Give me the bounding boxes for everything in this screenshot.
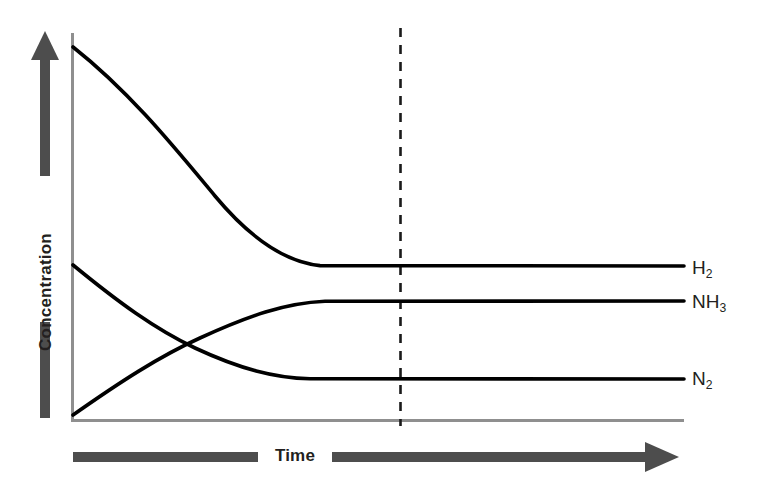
y-axis-title: Concentration: [36, 192, 56, 392]
series-label-nh3-formula: NH: [692, 291, 719, 312]
series-label-n2-formula: N: [692, 368, 706, 389]
series-label-nh3: NH3: [692, 292, 726, 311]
chart-canvas: [0, 0, 761, 488]
series-label-h2-subscript: 2: [706, 267, 713, 281]
right-arrow-icon: [73, 442, 679, 472]
series-label-nh3-subscript: 3: [719, 301, 726, 315]
series-label-n2-subscript: 2: [706, 378, 713, 392]
equilibrium-concentration-chart: Concentration Time H2 NH3 N2: [0, 0, 761, 488]
curve-h2: [73, 47, 684, 266]
series-label-n2: N2: [692, 369, 713, 388]
series-label-h2: H2: [692, 258, 713, 277]
x-axis-title: Time: [255, 446, 335, 466]
series-label-h2-formula: H: [692, 257, 706, 278]
curve-n2: [73, 265, 684, 379]
curve-nh3: [73, 301, 684, 415]
